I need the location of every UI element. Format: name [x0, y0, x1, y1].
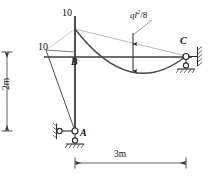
ground-c-hatch: [176, 69, 195, 73]
roller-a: [72, 138, 77, 143]
beam-moment-chord: [46, 29, 186, 56]
column-moment-top-edge: [46, 50, 75, 52]
load-ordinate-denominator: /8: [140, 10, 147, 20]
joint-label-a: A: [80, 128, 87, 138]
load-ordinate-label: ql2/8: [130, 9, 147, 20]
pin-a-wall-end: [57, 128, 62, 133]
wall-c-hatch: [198, 47, 203, 67]
moment-value-top-label: 10: [62, 8, 72, 18]
beam-moment-parabola: [75, 29, 186, 73]
bending-moment-diagram-figure: 10 10 B A C ql2/8 3m 2m: [0, 0, 209, 179]
load-ordinate-base: ql: [130, 10, 137, 20]
dimension-horizontal-3m: [75, 158, 186, 169]
chord-line-left-ordinate: [46, 29, 75, 50]
load-ordinate-leader: [133, 20, 152, 35]
dimension-label-2m: 2m: [2, 78, 12, 90]
pin-joint-c: [183, 54, 189, 60]
dimension-vertical-2m: [2, 52, 13, 131]
ground-a-hatch: [65, 144, 84, 148]
wall-a-hatch: [53, 123, 57, 138]
joint-label-c: C: [180, 36, 187, 46]
dimension-label-3m: 3m: [114, 150, 126, 160]
diagram-canvas: [0, 0, 209, 179]
chord-line-b-to-c: [75, 29, 186, 56]
pin-joint-a: [72, 128, 78, 134]
moment-value-left-label: 10: [38, 42, 48, 52]
joint-label-b: B: [71, 57, 78, 67]
roller-c: [183, 63, 188, 68]
